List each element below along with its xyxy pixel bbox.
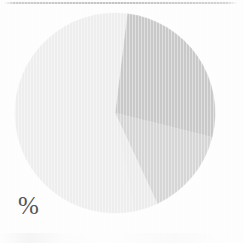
pie-slice-group	[15, 13, 215, 213]
percent-axis-label: %	[18, 193, 39, 219]
scan-smudge-artifact	[0, 233, 244, 243]
scanned-page: %	[0, 0, 244, 243]
